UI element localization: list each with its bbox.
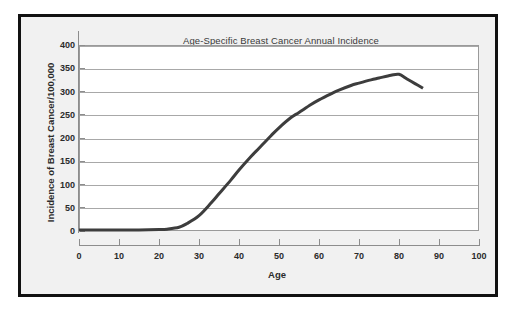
x-tick-mark-90 (439, 239, 440, 245)
x-tick-label-0: 0 (59, 251, 99, 261)
x-tick-label-50: 50 (259, 251, 299, 261)
x-tick-mark-20 (159, 239, 160, 245)
x-tick-mark-30 (199, 239, 200, 245)
x-tick-label-60: 60 (299, 251, 339, 261)
series-line-0 (79, 74, 423, 230)
y-axis-ticks: 050100150200250300350400 (27, 45, 75, 231)
y-tick-label-250: 250 (35, 110, 75, 120)
y-tick-label-50: 50 (35, 203, 75, 213)
x-tick-mark-0 (79, 239, 80, 245)
y-tick-label-400: 400 (35, 40, 75, 50)
x-tick-label-40: 40 (219, 251, 259, 261)
y-tick-label-350: 350 (35, 63, 75, 73)
x-axis-label: Age (77, 269, 477, 280)
x-tick-mark-60 (319, 239, 320, 245)
x-tick-label-10: 10 (99, 251, 139, 261)
x-axis-line (79, 245, 480, 246)
x-tick-mark-70 (359, 239, 360, 245)
y-tick-label-150: 150 (35, 156, 75, 166)
data-series-layer (79, 45, 479, 231)
x-tick-label-70: 70 (339, 251, 379, 261)
x-tick-label-30: 30 (179, 251, 219, 261)
chart-surface: Age-Specific Breast Cancer Annual Incide… (21, 17, 495, 294)
x-tick-mark-80 (399, 239, 400, 245)
y-tick-label-300: 300 (35, 87, 75, 97)
x-tick-mark-40 (239, 239, 240, 245)
y-tick-label-100: 100 (35, 180, 75, 190)
x-tick-label-100: 100 (459, 251, 499, 261)
x-tick-mark-100 (479, 239, 480, 245)
x-tick-mark-50 (279, 239, 280, 245)
x-tick-label-90: 90 (419, 251, 459, 261)
x-tick-label-20: 20 (139, 251, 179, 261)
y-tick-label-0: 0 (35, 226, 75, 236)
x-tick-mark-10 (119, 239, 120, 245)
y-tick-label-200: 200 (35, 133, 75, 143)
x-tick-label-80: 80 (379, 251, 419, 261)
figure-frame: Age-Specific Breast Cancer Annual Incide… (18, 14, 498, 297)
